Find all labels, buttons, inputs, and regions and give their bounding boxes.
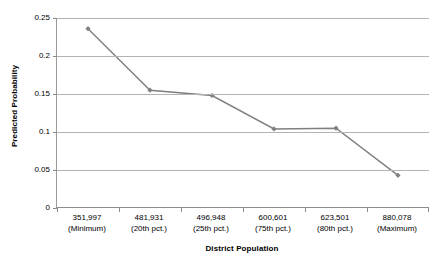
x-axis-title: District Population xyxy=(56,244,428,253)
y-axis-tick-label: 0.25 xyxy=(0,14,54,22)
y-axis-tick-label: 0.05 xyxy=(0,166,54,174)
gridline xyxy=(57,132,429,133)
x-category-sublabel: (Maximum) xyxy=(366,223,428,234)
x-category-value: 623,501 xyxy=(304,212,366,223)
gridline xyxy=(57,18,429,19)
y-axis-tick xyxy=(53,94,57,95)
x-category-value: 880,078 xyxy=(366,212,428,223)
y-axis-tick xyxy=(53,132,57,133)
series-line xyxy=(88,29,398,176)
y-axis-tick xyxy=(53,18,57,19)
x-category-value: 496,948 xyxy=(180,212,242,223)
plot-area xyxy=(56,18,429,208)
x-category-sublabel: (75th pct.) xyxy=(242,223,304,234)
x-axis-category-label: 481,931(20th pct.) xyxy=(118,212,180,234)
x-axis-category-label: 600,601(75th pct.) xyxy=(242,212,304,234)
data-point-marker xyxy=(271,126,276,131)
x-axis-category-label: 496,948(25th pct.) xyxy=(180,212,242,234)
gridline xyxy=(57,94,429,95)
gridline xyxy=(57,56,429,57)
x-axis-category-label: 351,997(Minimum) xyxy=(56,212,118,234)
x-category-sublabel: (80th pct.) xyxy=(304,223,366,234)
y-axis-tick-label: 0.15 xyxy=(0,90,54,98)
x-axis-tick-labels: 351,997(Minimum)481,931(20th pct.)496,94… xyxy=(56,212,428,242)
y-axis-tick-label: 0.2 xyxy=(0,52,54,60)
y-axis-tick xyxy=(53,56,57,57)
x-axis-category-label: 880,078(Maximum) xyxy=(366,212,428,234)
y-axis-tick xyxy=(53,170,57,171)
x-axis-tick xyxy=(428,208,429,212)
x-category-value: 600,601 xyxy=(242,212,304,223)
x-category-sublabel: (25th pct.) xyxy=(180,223,242,234)
y-axis-tick-label: 0 xyxy=(0,204,54,212)
x-category-sublabel: (20th pct.) xyxy=(118,223,180,234)
chart-container: Predicted Probability 00.050.10.150.20.2… xyxy=(0,0,442,266)
x-category-value: 351,997 xyxy=(56,212,118,223)
y-axis-tick-labels: 00.050.10.150.20.25 xyxy=(0,0,54,266)
data-series-line xyxy=(57,18,429,208)
y-axis-tick-label: 0.1 xyxy=(0,128,54,136)
x-category-value: 481,931 xyxy=(118,212,180,223)
gridline xyxy=(57,170,429,171)
x-axis-category-label: 623,501(80th pct.) xyxy=(304,212,366,234)
x-category-sublabel: (Minimum) xyxy=(56,223,118,234)
